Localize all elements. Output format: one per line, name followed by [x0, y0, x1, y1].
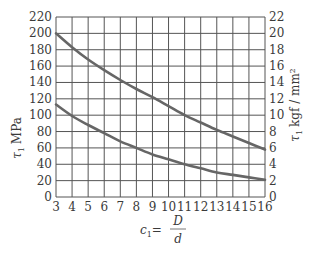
y2-tick-label: 18: [269, 43, 284, 57]
y2-tick-label: 22: [269, 10, 284, 24]
x-tick-label: 9: [149, 200, 157, 214]
y-tick-label: 180: [29, 43, 52, 57]
y-tick-label: 40: [37, 157, 52, 171]
x-tick-label: 3: [52, 200, 60, 214]
y2-tick-label: 16: [269, 59, 284, 73]
y-tick-label: 160: [29, 59, 52, 73]
y-tick-label: 60: [37, 141, 52, 155]
svg-text:d: d: [174, 232, 182, 246]
x-tick-label: 15: [241, 200, 256, 214]
x-tick-label: 7: [116, 200, 124, 214]
y2-tick-label: 14: [269, 75, 285, 89]
x-tick-label: 6: [100, 200, 108, 214]
x-tick-label: 10: [161, 200, 176, 214]
x-tick-label: 14: [225, 200, 241, 214]
x-tick-label: 4: [68, 200, 76, 214]
y-tick-label: 220: [29, 10, 52, 24]
x-tick-label: 12: [193, 200, 208, 214]
y2-tick-label: 4: [269, 157, 277, 171]
y2-tick-label: 12: [269, 92, 284, 106]
y-tick-label: 200: [29, 26, 52, 40]
grid: [56, 17, 265, 197]
y-axis-left-label: τ1MPa: [10, 117, 26, 159]
series-line: [56, 105, 265, 180]
y2-tick-label: 6: [269, 141, 277, 155]
y-tick-label: 20: [37, 174, 52, 188]
y2-tick-label: 10: [269, 108, 284, 122]
y-tick-label: 0: [44, 190, 52, 204]
y-axis-left-ticks: 020406080100120140160180200220: [29, 10, 52, 204]
x-tick-label: 13: [209, 200, 224, 214]
y-tick-label: 140: [29, 75, 52, 89]
x-axis-ticks: 345678910111213141516: [52, 200, 272, 214]
y2-tick-label: 8: [269, 125, 277, 139]
x-axis-label: c1= D d: [140, 214, 186, 246]
y-tick-label: 120: [29, 92, 52, 106]
series-line: [56, 33, 265, 149]
y2-tick-label: 20: [269, 26, 284, 40]
y-tick-label: 100: [29, 108, 52, 122]
x-tick-label: 11: [177, 200, 192, 214]
chart: 020406080100120140160180200220 024681012…: [0, 0, 314, 255]
svg-text:c1=: c1=: [140, 223, 162, 239]
x-tick-label: 5: [84, 200, 92, 214]
series-lines: [56, 33, 265, 179]
y-tick-label: 80: [37, 125, 52, 139]
svg-text:D: D: [172, 214, 183, 228]
y2-tick-label: 2: [269, 174, 277, 188]
x-tick-label: 16: [257, 200, 272, 214]
y-axis-right-ticks: 0246810121416182022: [269, 10, 285, 204]
x-tick-label: 8: [133, 200, 141, 214]
y-axis-right-label: τ1kgf / mm²: [288, 68, 304, 142]
